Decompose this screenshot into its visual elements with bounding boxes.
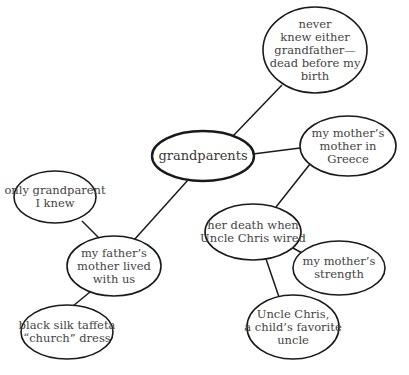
edge-mothers-mother-to-her-death — [276, 164, 310, 207]
node-label-line: birth — [270, 70, 361, 83]
node-label-her-death: her death whenUncle Chris wired — [200, 219, 306, 245]
edge-grandparents-to-fathers-mother — [134, 180, 188, 240]
edge-her-death-to-uncle-chris — [266, 259, 279, 297]
node-label-mothers-mother: my mother’smother inGreece — [312, 127, 385, 166]
node-label-black-silk: black silk taffeta“church” dress — [19, 319, 116, 345]
edge-grandparents-to-never-knew — [233, 85, 282, 136]
node-label-only-grandparent: only grandparentI knew — [4, 184, 105, 210]
node-label-line: strength — [303, 268, 376, 281]
node-label-line: “church” dress — [19, 332, 116, 345]
edge-grandparents-to-mothers-mother — [253, 148, 300, 154]
node-label-line: I knew — [4, 197, 105, 210]
node-label-uncle-chris: Uncle Chris,a child’s favoriteuncle — [244, 308, 341, 347]
node-label-line: Uncle Chris wired — [200, 232, 306, 245]
node-label-line: uncle — [244, 334, 341, 347]
edge-fathers-mother-to-black-silk — [73, 292, 90, 306]
node-label-never-knew: neverknew eithergrandfather—dead before … — [270, 18, 361, 83]
node-label-fathers-mother: my father’smother livedwith us — [77, 247, 151, 286]
node-label-line: Greece — [312, 153, 385, 166]
node-label-line: with us — [77, 273, 151, 286]
node-label-grandparents: grandparents — [158, 149, 247, 163]
node-label-mothers-strength: my mother’sstrength — [303, 255, 376, 281]
node-label-line: grandparents — [158, 149, 247, 163]
